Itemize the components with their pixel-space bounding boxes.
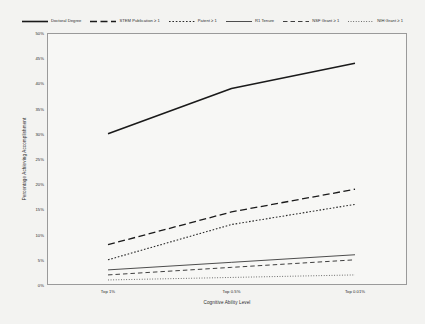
- x-axis-tick-label: Top 0.5%: [223, 289, 241, 294]
- legend-label: Patent ≥ 1: [198, 19, 217, 23]
- series-line: [108, 204, 355, 259]
- y-axis-tick-label: 25%: [22, 157, 47, 162]
- y-axis-tick-label: 0%: [22, 283, 47, 288]
- y-axis-tick-label: 50%: [22, 31, 47, 36]
- legend-line-swatch: [90, 18, 116, 25]
- y-axis-tick-label: 20%: [22, 182, 47, 187]
- x-axis-tick-label: Top 1%: [101, 289, 115, 294]
- legend-label: NIH Grant ≥ 1: [377, 19, 403, 23]
- chart-legend: Doctoral DegreeSTEM Publication ≥ 1Paten…: [0, 14, 425, 28]
- chart-figure: Doctoral DegreeSTEM Publication ≥ 1Paten…: [0, 0, 425, 324]
- legend-label: R1 Tenure: [255, 19, 274, 23]
- y-axis-tick-label: 10%: [22, 232, 47, 237]
- legend-line-swatch: [283, 18, 309, 25]
- y-axis-tick-label: 40%: [22, 81, 47, 86]
- series-line: [108, 189, 355, 244]
- y-axis-tick-label: 5%: [22, 257, 47, 262]
- legend-label: NSF Grant ≥ 1: [312, 19, 339, 23]
- x-axis-tick-label: Top 0.01%: [345, 289, 365, 294]
- y-axis-tick-label: 45%: [22, 56, 47, 61]
- legend-line-swatch: [226, 18, 252, 25]
- legend-item: STEM Publication ≥ 1: [90, 18, 159, 25]
- y-axis-tick-label: 15%: [22, 207, 47, 212]
- x-axis-title: Cognitive Ability Level: [47, 300, 407, 305]
- chart-series-layer: [47, 33, 407, 285]
- legend-line-swatch: [169, 18, 195, 25]
- legend-item: R1 Tenure: [226, 18, 274, 25]
- series-line: [108, 275, 355, 280]
- legend-line-swatch: [348, 18, 374, 25]
- y-axis-tick-label: 35%: [22, 106, 47, 111]
- legend-label: STEM Publication ≥ 1: [119, 19, 159, 23]
- y-axis-tick-label: 30%: [22, 131, 47, 136]
- legend-label: Doctoral Degree: [51, 19, 82, 23]
- legend-item: NSF Grant ≥ 1: [283, 18, 339, 25]
- series-line: [108, 63, 355, 134]
- legend-item: NIH Grant ≥ 1: [348, 18, 403, 25]
- y-axis-tick-labels: 0%5%10%15%20%25%30%35%40%45%50%: [22, 0, 47, 324]
- legend-item: Patent ≥ 1: [169, 18, 217, 25]
